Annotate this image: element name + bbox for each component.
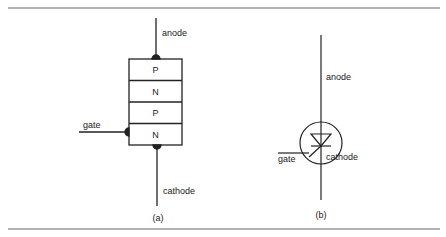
cathode-label-a: cathode [163, 186, 195, 196]
gate-terminal-dot [125, 128, 129, 136]
gate-label-b: gate [278, 154, 296, 164]
layer-label: P [152, 65, 158, 75]
layer-label: N [152, 130, 159, 140]
thyristor-symbol [278, 35, 342, 200]
caption-a: (a) [153, 213, 164, 223]
layer-label: P [152, 108, 158, 118]
cathode-label-b: cathode [326, 152, 358, 162]
pnpn-structure-diagram [79, 18, 182, 206]
gate-diagonal [309, 146, 321, 157]
thyristor-figure: anode P N P N gate cathode (a) anode gat… [0, 0, 446, 237]
layer-label: N [152, 87, 159, 97]
caption-b: (b) [316, 210, 327, 220]
gate-label-a: gate [83, 120, 101, 130]
anode-label-b: anode [326, 72, 351, 82]
anode-label-a: anode [162, 28, 187, 38]
cathode-terminal-dot [153, 145, 161, 149]
